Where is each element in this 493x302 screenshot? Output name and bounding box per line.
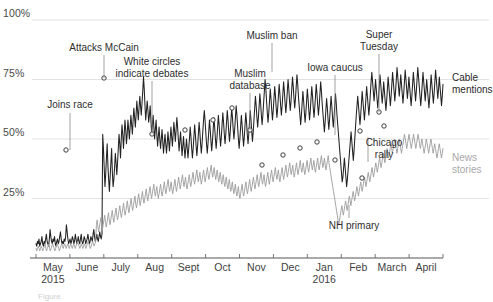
x-tick-label-june: June [75, 261, 98, 273]
y-tick-label-50pct: 50% [3, 126, 24, 138]
x-tick-year: 2015 [41, 273, 64, 285]
x-tick-month: March [378, 261, 407, 273]
x-tick-label-aug: Aug [145, 261, 164, 273]
x-tick-label-nov: Nov [247, 261, 266, 273]
annotation-line: Attacks McCain [69, 42, 138, 54]
x-tick-label-jan: Jan2016 [313, 261, 336, 285]
x-tick-month: June [75, 261, 98, 273]
x-tick-month: July [111, 261, 130, 273]
annotation-line: database [229, 80, 270, 92]
x-tick-label-july: July [111, 261, 130, 273]
debate-marker-circle [64, 148, 68, 152]
annotation-joins-race: Joins race [47, 99, 93, 111]
debate-marker-circle [333, 158, 337, 162]
annotation-muslim-database: Muslimdatabase [229, 68, 270, 91]
debate-marker-circle [382, 124, 386, 128]
x-tick-label-may: May2015 [41, 261, 64, 285]
debate-marker-circle [315, 140, 319, 144]
debate-marker-circle [360, 176, 364, 180]
series-label-line: News [452, 152, 481, 164]
x-tick-month: May [43, 261, 63, 273]
annotation-line: White circles [116, 56, 189, 68]
x-tick-month: Sept [178, 261, 200, 273]
x-tick-month: Jan [316, 261, 333, 273]
annotation-iowa-caucus: Iowa caucus [307, 62, 363, 74]
debate-marker-circle [183, 128, 187, 132]
debate-marker-circle [298, 146, 302, 150]
x-tick-year: 2016 [313, 273, 336, 285]
y-tick-label-100pct: 100% [3, 7, 30, 19]
series-label-line: Cable [452, 72, 493, 84]
annotation-muslim-ban: Muslim ban [246, 30, 297, 42]
y-tick-label-75pct: 75% [3, 67, 24, 79]
annotation-nh-primary: NH primary [329, 220, 380, 232]
annotation-chicago-rally: Chicagorally [366, 137, 403, 160]
x-tick-label-feb: Feb [349, 261, 367, 273]
series-label-news-stories: Newsstories [452, 152, 481, 175]
x-tick-month: April [416, 261, 437, 273]
annotation-line: NH primary [329, 220, 380, 232]
x-tick-label-march: March [378, 261, 407, 273]
x-tick-label-oct: Oct [214, 261, 230, 273]
annotation-line: Chicago [366, 137, 403, 149]
annotation-line: indicate debates [116, 68, 189, 80]
annotation-line: Tuesday [360, 41, 398, 53]
x-tick-label-sept: Sept [178, 261, 200, 273]
series-label-line: stories [452, 164, 481, 176]
x-tick-month: Oct [214, 261, 230, 273]
debate-marker-circle [211, 118, 215, 122]
annotation-line: Muslim [229, 68, 270, 80]
x-tick-month: Nov [247, 261, 266, 273]
annotation-white-circles-debates: White circlesindicate debates [116, 56, 189, 79]
series-label-cable-mentions: Cablementions [452, 72, 493, 95]
x-tick-label-dec: Dec [281, 261, 300, 273]
series-label-line: mentions [452, 84, 493, 96]
figure-caption: Figure [38, 292, 61, 301]
annotation-line: rally [366, 149, 403, 161]
x-tick-month: Dec [281, 261, 300, 273]
y-tick-label-25pct: 25% [3, 186, 24, 198]
debate-marker-circle [230, 106, 234, 110]
annotation-line: Super [360, 29, 398, 41]
debate-marker-circle [260, 163, 264, 167]
x-tick-month: Aug [145, 261, 164, 273]
annotation-line: Muslim ban [246, 30, 297, 42]
annotation-super-tuesday: SuperTuesday [360, 29, 398, 52]
annotation-attacks-mccain: Attacks McCain [69, 42, 138, 54]
annotation-line: Joins race [47, 99, 93, 111]
x-tick-month: Feb [349, 261, 367, 273]
debate-marker-circle [281, 153, 285, 157]
debate-marker-circle [358, 129, 362, 133]
annotation-line: Iowa caucus [307, 62, 363, 74]
x-tick-label-april: April [416, 261, 437, 273]
